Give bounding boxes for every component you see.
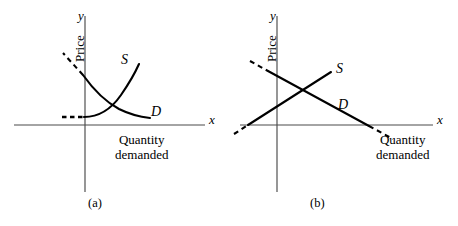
panel-a-price-axis-title: Price (73, 35, 86, 62)
panel-b-supply-label: S (336, 62, 343, 76)
panel-b-demand-dashed-extension-upper (250, 61, 268, 71)
panel-a-y-axis-label: y (78, 9, 84, 22)
panel-a-quantity-line2: demanded (115, 147, 168, 162)
panel-b-quantity-line1: Quantity (376, 132, 429, 147)
panel-b-supply-dashed-extension (234, 125, 248, 134)
panel-b-quantity-title: Quantity demanded (376, 132, 429, 163)
panel-a-caption: (a) (88, 197, 102, 210)
panel-b-price-axis-title: Price (265, 35, 278, 62)
figure-root: y x Price S D Quantity demanded (a) y x … (0, 0, 458, 226)
panel-b-demand-label: D (338, 98, 348, 112)
panel-a-demand-label: D (151, 105, 161, 119)
panel-b-quantity-line2: demanded (376, 147, 429, 162)
panel-a-quantity-title: Quantity demanded (115, 132, 168, 163)
panel-a-graphics (14, 16, 205, 192)
panel-b-x-axis-label: x (437, 113, 443, 126)
panel-a-quantity-line1: Quantity (115, 132, 168, 147)
panel-a-supply-label: S (121, 53, 128, 67)
figure-canvas (0, 0, 458, 226)
panel-a-supply-curve (84, 64, 139, 117)
panel-a-x-axis-label: x (209, 113, 215, 126)
panel-b-caption: (b) (310, 197, 325, 210)
panel-b-y-axis-label: y (270, 9, 276, 22)
panel-a-demand-curve (83, 75, 150, 118)
